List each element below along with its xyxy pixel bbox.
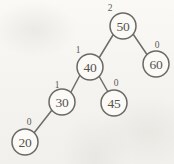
node-key-30: 30: [56, 95, 69, 110]
edge-50-to-60: [133, 34, 148, 56]
node-key-50: 50: [117, 19, 130, 34]
balance-factor-60: 0: [155, 40, 160, 50]
balance-factor-30: 1: [55, 80, 60, 90]
tree-node-60[interactable]: 60: [143, 51, 169, 77]
balance-factor-50: 2: [108, 3, 113, 13]
tree-node-40[interactable]: 40: [77, 54, 103, 80]
edge-30-to-20: [34, 110, 52, 133]
edges-group: [34, 34, 148, 133]
node-key-60: 60: [150, 57, 163, 72]
tree-node-20[interactable]: 20: [12, 129, 38, 155]
balance-factor-45: 0: [114, 78, 119, 88]
tree-node-50[interactable]: 50: [110, 13, 136, 39]
edge-40-to-30: [71, 75, 80, 92]
avl-tree-figure: 504060304520 210100: [0, 0, 174, 164]
node-key-40: 40: [84, 60, 97, 75]
balance-factor-20: 0: [27, 117, 32, 127]
node-key-20: 20: [19, 135, 32, 150]
tree-node-30[interactable]: 30: [49, 89, 75, 115]
tree-node-45[interactable]: 45: [101, 90, 127, 116]
balance-factor-40: 1: [76, 45, 81, 55]
nodes-group: 504060304520: [12, 13, 169, 155]
edge-50-to-40: [99, 35, 113, 58]
node-key-45: 45: [108, 96, 121, 111]
tree-canvas: 504060304520 210100: [0, 0, 174, 164]
edge-40-to-45: [99, 76, 108, 92]
